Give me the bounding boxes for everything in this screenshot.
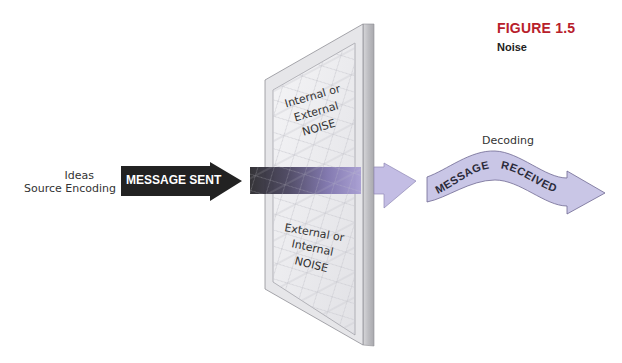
figure-title: Noise bbox=[497, 41, 527, 53]
source-line-ideas: Ideas bbox=[0, 169, 116, 182]
message-sent-label: MESSAGE SENT bbox=[126, 173, 221, 187]
message-through-panel-bar bbox=[250, 167, 361, 194]
source-line-encoding: Source Encoding bbox=[0, 182, 116, 195]
message-exit-arrow bbox=[374, 163, 416, 208]
message-received-arrow: MESSAGE RECEIVED bbox=[427, 151, 605, 214]
decoding-label: Decoding bbox=[482, 134, 534, 147]
source-encoding-label: Ideas Source Encoding bbox=[0, 169, 116, 195]
figure-label: FIGURE 1.5 bbox=[497, 20, 575, 36]
noise-diagram: Internal or External NOISE External or I… bbox=[0, 0, 622, 363]
